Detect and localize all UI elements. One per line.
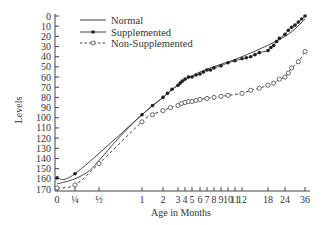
data-point <box>296 60 300 64</box>
data-point <box>303 14 307 18</box>
data-point <box>198 72 202 76</box>
x-axis-title: Age in Months <box>151 207 211 218</box>
x-tick-label: 8 <box>212 194 217 205</box>
data-point <box>300 17 304 21</box>
data-point <box>249 55 253 59</box>
data-point <box>240 91 244 95</box>
x-tick-label: 5 <box>190 194 195 205</box>
data-point <box>73 172 77 176</box>
x-tick-label: 2 <box>161 194 166 205</box>
data-point <box>283 33 287 37</box>
data-point <box>212 66 216 70</box>
data-point <box>166 92 170 96</box>
legend: NormalSupplementedNon-Supplemented <box>80 15 193 49</box>
data-point <box>202 70 206 74</box>
data-point <box>198 97 202 101</box>
data-point <box>190 99 194 103</box>
data-point <box>245 56 249 60</box>
data-point <box>205 96 209 100</box>
data-point <box>161 96 165 100</box>
data-point <box>212 95 216 99</box>
data-point <box>253 53 257 57</box>
legend-label: Supplemented <box>111 27 172 38</box>
data-point <box>226 61 230 65</box>
series-line-non-supplemented <box>57 52 305 188</box>
legend-item-supplemented: Supplemented <box>80 27 172 38</box>
data-point <box>151 104 155 108</box>
data-point <box>249 88 253 92</box>
data-point <box>240 57 244 61</box>
data-point <box>209 68 213 72</box>
data-point <box>219 94 223 98</box>
data-point <box>266 49 270 53</box>
chart: 0102030405060708090100110120130140150160… <box>0 0 330 225</box>
data-point <box>190 75 194 79</box>
data-point <box>170 87 174 91</box>
data-point <box>219 64 223 68</box>
x-tick-label: 0 <box>55 194 60 205</box>
y-tick-label: 170 <box>36 184 51 195</box>
x-tick-label: 1 <box>140 194 145 205</box>
data-point <box>290 66 294 70</box>
x-tick-label: ¼ <box>71 194 79 205</box>
x-tick-label: ½ <box>95 194 103 205</box>
data-point <box>140 120 144 124</box>
legend-item-normal: Normal <box>80 15 143 26</box>
x-tick-label: 36 <box>300 194 310 205</box>
x-tick-label: 7 <box>205 194 210 205</box>
data-point <box>266 83 270 87</box>
x-tick-label: 4 <box>183 194 188 205</box>
y-axis-title: Levels <box>13 97 24 124</box>
data-point <box>55 176 59 180</box>
legend-label: Normal <box>111 15 143 26</box>
data-point <box>194 73 198 77</box>
data-point <box>277 77 281 81</box>
y-axis: 0102030405060708090100110120130140150160… <box>36 11 59 195</box>
data-point <box>290 25 294 29</box>
data-point <box>272 44 276 48</box>
x-tick-label: 18 <box>263 194 273 205</box>
x-tick-label: 3 <box>176 194 181 205</box>
data-point <box>73 183 77 187</box>
data-point <box>140 113 144 117</box>
legend-marker <box>91 41 95 45</box>
x-tick-label: 6 <box>198 194 203 205</box>
data-point <box>161 109 165 113</box>
data-point <box>187 75 191 79</box>
data-point <box>97 161 101 165</box>
data-point <box>150 113 154 117</box>
legend-item-non-supplemented: Non-Supplemented <box>80 38 193 49</box>
data-point <box>55 186 59 190</box>
data-point <box>286 71 290 75</box>
data-point <box>272 81 276 85</box>
data-point <box>183 77 187 81</box>
data-point <box>287 28 291 32</box>
x-tick-label: 12 <box>237 194 247 205</box>
data-point <box>194 98 198 102</box>
data-point <box>168 105 172 109</box>
series-non-supplemented <box>55 50 307 191</box>
data-point <box>283 75 287 79</box>
data-point <box>258 51 262 55</box>
legend-label: Non-Supplemented <box>111 38 193 49</box>
data-point <box>275 40 279 44</box>
data-point <box>278 37 282 41</box>
x-axis: 0¼½123456789101112182436 <box>55 187 311 205</box>
data-point <box>297 20 301 24</box>
data-point <box>303 50 307 54</box>
legend-marker <box>91 30 95 34</box>
data-point <box>233 59 237 63</box>
x-tick-label: 24 <box>280 194 290 205</box>
data-point <box>257 86 261 90</box>
data-point <box>226 93 230 97</box>
data-point <box>205 68 209 72</box>
data-point <box>293 23 297 27</box>
